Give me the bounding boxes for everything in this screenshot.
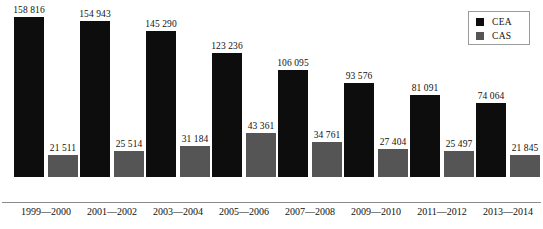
legend-swatch-cea-icon <box>476 18 484 26</box>
bar-cea[interactable]: 145 290 <box>146 0 176 177</box>
bar-value-label: 25 514 <box>116 139 143 149</box>
bar-cas[interactable]: 27 404 <box>378 0 408 177</box>
bar-value-label: 74 064 <box>478 91 505 101</box>
legend-item-cea: CEA <box>476 16 529 28</box>
bar-cea[interactable]: 154 943 <box>80 0 110 177</box>
bar-rect <box>80 21 110 177</box>
bar-cas[interactable]: 25 514 <box>114 0 144 177</box>
bar-value-label: 31 184 <box>182 134 209 144</box>
category-label: 2013—2014 <box>469 206 543 217</box>
bar-rect <box>344 83 374 177</box>
bar-value-label: 158 816 <box>13 5 45 15</box>
bar-value-label: 81 091 <box>412 83 439 93</box>
bar-value-label: 27 404 <box>380 137 407 147</box>
chart-legend: CEA CAS <box>468 11 530 45</box>
bar-rect <box>444 151 474 177</box>
bar-value-label: 123 236 <box>211 41 243 51</box>
bar-value-label: 21 845 <box>512 143 539 153</box>
x-axis-line <box>2 202 541 203</box>
bar-rect <box>114 151 144 177</box>
bar-cea[interactable]: 93 576 <box>344 0 374 177</box>
bar-rect <box>378 149 408 177</box>
bar-chart: 158 81621 511154 94325 514145 29031 1841… <box>0 0 543 229</box>
bar-rect <box>180 146 210 177</box>
legend-item-cas: CAS <box>476 30 529 42</box>
bar-cas[interactable]: 34 761 <box>312 0 342 177</box>
bar-rect <box>410 95 440 177</box>
bar-value-label: 25 497 <box>446 139 473 149</box>
bar-value-label: 154 943 <box>79 9 111 19</box>
legend-swatch-cas-icon <box>476 32 484 40</box>
bar-cea[interactable]: 123 236 <box>212 0 242 177</box>
bar-cea[interactable]: 106 095 <box>278 0 308 177</box>
plot-area: 158 81621 511154 94325 514145 29031 1841… <box>0 0 543 203</box>
bar-value-label: 93 576 <box>346 71 373 81</box>
bar-rect <box>476 103 506 177</box>
bar-value-label: 34 761 <box>314 130 341 140</box>
bar-value-label: 21 511 <box>50 143 76 153</box>
bar-cas[interactable]: 43 361 <box>246 0 276 177</box>
bar-rect <box>48 155 78 177</box>
bar-rect <box>278 70 308 177</box>
bar-rect <box>510 155 540 177</box>
bar-rect <box>14 17 44 177</box>
bar-cas[interactable]: 31 184 <box>180 0 210 177</box>
bar-rect <box>212 53 242 177</box>
legend-label-cea: CEA <box>492 17 512 27</box>
bar-value-label: 106 095 <box>277 58 309 68</box>
bar-cea[interactable]: 158 816 <box>14 0 44 177</box>
bar-value-label: 145 290 <box>145 19 177 29</box>
legend-label-cas: CAS <box>492 31 511 41</box>
bar-value-label: 43 361 <box>248 121 275 131</box>
bar-rect <box>146 31 176 177</box>
bar-cas[interactable]: 21 511 <box>48 0 78 177</box>
bar-rect <box>246 133 276 177</box>
bar-cea[interactable]: 81 091 <box>410 0 440 177</box>
bar-rect <box>312 142 342 177</box>
